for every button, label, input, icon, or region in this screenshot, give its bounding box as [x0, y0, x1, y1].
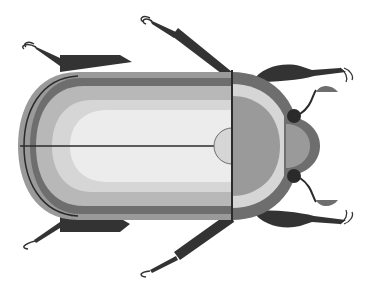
- leg-middle-bottom: [141, 212, 234, 277]
- beetle-illustration: Beetle (top view): [0, 0, 376, 292]
- leg-middle-top: [141, 17, 232, 80]
- leg-rear-bottom: [24, 217, 130, 249]
- head: [284, 109, 320, 183]
- leg-front-bottom: [252, 210, 353, 227]
- leg-front-top: [252, 65, 353, 82]
- elytra: [18, 72, 232, 220]
- eye-bottom: [287, 169, 301, 183]
- eye-top: [287, 109, 301, 123]
- leg-rear-top: [23, 42, 132, 72]
